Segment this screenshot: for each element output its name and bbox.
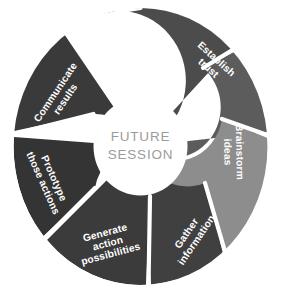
svg-text:ideas: ideas — [222, 139, 233, 166]
center-title-line1: FUTURE — [111, 129, 171, 144]
label-build-relationships: Build relationships — [86, 21, 155, 65]
iris-svg: FUTURE SESSION Build relationships Estab… — [0, 0, 282, 294]
svg-text:Brainstorm: Brainstorm — [234, 124, 246, 180]
future-session-iris-diagram: FUTURE SESSION Build relationships Estab… — [0, 0, 282, 294]
center-title-line2: SESSION — [108, 147, 174, 162]
